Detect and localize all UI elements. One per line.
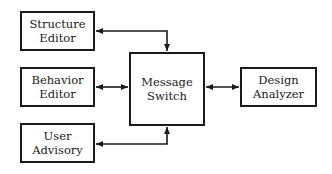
node-label-line: Switch: [147, 89, 187, 103]
node-label-line: Message: [141, 75, 192, 89]
edge-switch-advisory: [96, 127, 167, 144]
structure-editor-node: Structure Editor: [20, 11, 95, 51]
message-switch-node: Message Switch: [129, 52, 205, 126]
node-label-line: Editor: [39, 31, 75, 45]
behavior-editor-node: Behavior Editor: [20, 67, 95, 107]
user-advisory-node: User Advisory: [20, 123, 95, 163]
node-label-line: User: [44, 129, 72, 143]
node-label-line: Structure: [29, 17, 85, 31]
node-label-line: Analyzer: [253, 87, 304, 101]
node-label-line: Advisory: [32, 143, 83, 157]
design-analyzer-node: Design Analyzer: [240, 67, 317, 107]
node-label-line: Design: [258, 73, 298, 87]
node-label-line: Editor: [39, 87, 75, 101]
node-label-line: Behavior: [31, 73, 83, 87]
edge-switch-structure: [96, 31, 167, 51]
